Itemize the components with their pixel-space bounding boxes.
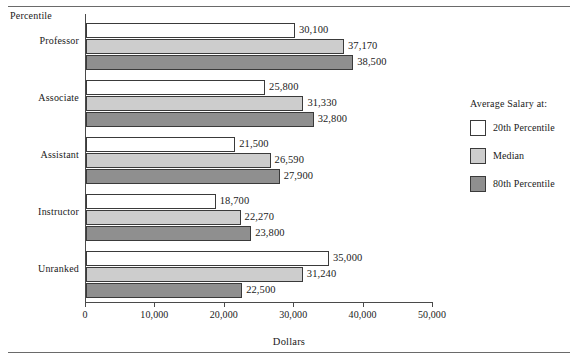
bar-value-label: 38,500 [357,56,386,67]
legend-item[interactable]: 80th Percentile [470,175,574,192]
legend-label: Median [493,150,524,161]
bar-value-label: 21,500 [239,138,268,149]
legend-item[interactable]: Median [470,147,574,164]
bar-value-label: 25,800 [269,81,298,92]
bar-group: Associate25,80031,33032,800 [86,80,432,128]
bar-value-label: 31,330 [307,97,336,108]
legend-label: 20th Percentile [493,122,555,133]
bar-row: 31,330 [86,96,432,111]
x-axis-line [85,302,433,303]
bar-row: 37,170 [86,39,432,54]
bar[interactable] [86,251,329,266]
bar-row: 22,500 [86,283,432,298]
category-label: Professor [39,35,79,46]
legend-label: 80th Percentile [493,178,555,189]
legend-items: 20th PercentileMedian80th Percentile [470,119,574,192]
bar-row: 22,270 [86,210,432,225]
bar[interactable] [86,267,303,282]
legend-title: Average Salary at: [470,98,574,109]
bar-row: 26,590 [86,153,432,168]
bar-row: 18,700 [86,194,432,209]
x-tick-label: 40,000 [349,309,377,320]
bar-row: 35,000 [86,251,432,266]
bar-value-label: 18,700 [220,195,249,206]
x-tick-label: 10,000 [140,309,168,320]
bar[interactable] [86,39,344,54]
bar-row: 21,500 [86,137,432,152]
bar-group: Assistant21,50026,59027,900 [86,137,432,185]
y-axis-title: Percentile [10,10,52,21]
bar[interactable] [86,137,235,152]
plot-area: Professor30,10037,17038,500Associate25,8… [85,14,432,302]
bar-value-label: 35,000 [333,252,362,263]
x-tick [85,302,86,307]
bar-row: 32,800 [86,112,432,127]
bar[interactable] [86,169,280,184]
bar[interactable] [86,153,271,168]
x-tick [154,302,155,307]
legend-item[interactable]: 20th Percentile [470,119,574,136]
top-rule [8,6,570,7]
bar-value-label: 30,100 [299,24,328,35]
bar-value-label: 23,800 [255,227,284,238]
x-axis-title: Dollars [0,336,578,347]
bar[interactable] [86,210,241,225]
bar-value-label: 37,170 [348,40,377,51]
legend-swatch [470,176,486,192]
bar-value-label: 22,270 [245,211,274,222]
bar[interactable] [86,283,242,298]
legend-swatch [470,148,486,164]
category-label: Instructor [38,206,79,217]
category-label: Unranked [38,263,79,274]
x-tick [363,302,364,307]
x-tick [432,302,433,307]
bar-value-label: 31,240 [307,268,336,279]
category-label: Assistant [41,149,79,160]
bar-row: 38,500 [86,55,432,70]
x-tick-label: 20,000 [210,309,238,320]
bar-value-label: 26,590 [275,154,304,165]
bar-row: 27,900 [86,169,432,184]
bottom-rule [8,352,570,353]
x-tick-label: 50,000 [418,309,446,320]
bar-group: Instructor18,70022,27023,800 [86,194,432,242]
bar[interactable] [86,194,216,209]
bar-group: Unranked35,00031,24022,500 [86,251,432,299]
x-tick [293,302,294,307]
bar-group: Professor30,10037,17038,500 [86,23,432,71]
bar-value-label: 27,900 [284,170,313,181]
bar-row: 30,100 [86,23,432,38]
category-label: Associate [38,92,79,103]
bar[interactable] [86,80,265,95]
bar[interactable] [86,55,353,70]
bar[interactable] [86,226,251,241]
bar[interactable] [86,96,303,111]
x-tick-label: 30,000 [279,309,307,320]
bar[interactable] [86,112,314,127]
bar-value-label: 32,800 [318,113,347,124]
bar-row: 25,800 [86,80,432,95]
bar-row: 23,800 [86,226,432,241]
bar[interactable] [86,23,295,38]
x-tick [224,302,225,307]
bar-row: 31,240 [86,267,432,282]
bar-value-label: 22,500 [246,284,275,295]
x-tick-label: 0 [82,309,87,320]
legend: Average Salary at: 20th PercentileMedian… [470,98,574,203]
legend-swatch [470,120,486,136]
figure: Percentile Professor30,10037,17038,500As… [0,0,578,364]
